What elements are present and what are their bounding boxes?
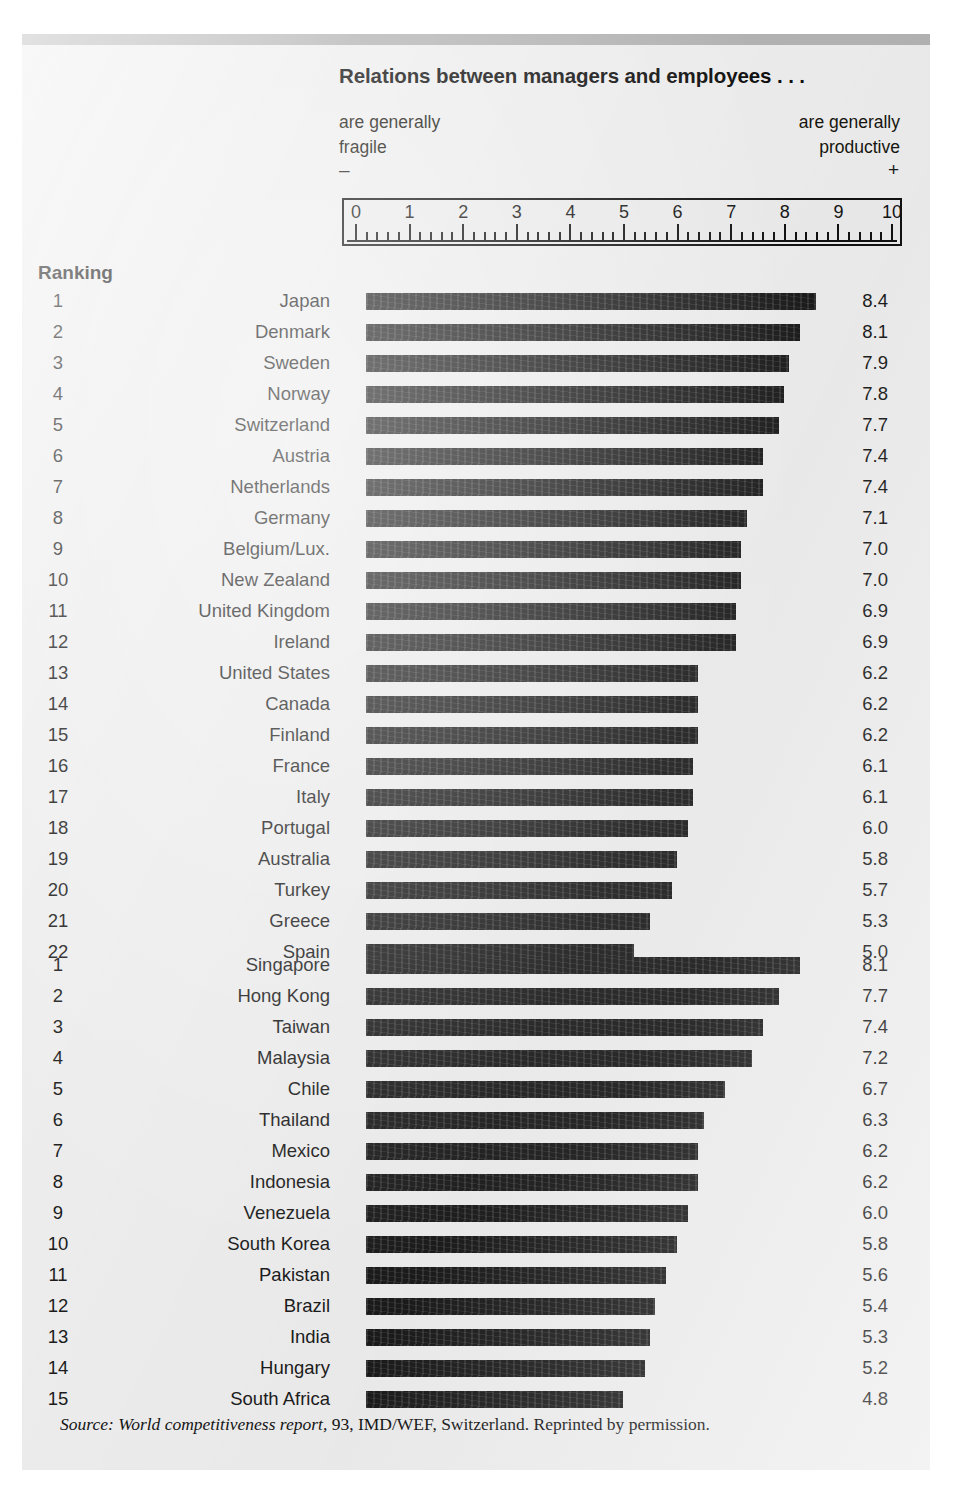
- ranking-row: 4Norway7.8: [22, 380, 930, 411]
- ranking-row: 21Greece5.3: [22, 907, 930, 938]
- rank-number: 8: [22, 507, 94, 529]
- ranking-row: 12Ireland6.9: [22, 628, 930, 659]
- rank-number: 16: [22, 755, 94, 777]
- value-label: 6.1: [828, 755, 888, 777]
- country-label: Finland: [132, 724, 330, 746]
- bar: [366, 1019, 763, 1036]
- country-label: Portugal: [132, 817, 330, 839]
- plus-sign-icon: +: [888, 161, 899, 179]
- rank-number: 7: [22, 476, 94, 498]
- value-label: 8.1: [828, 321, 888, 343]
- country-label: Germany: [132, 507, 330, 529]
- value-label: 7.9: [828, 352, 888, 374]
- value-label: 8.4: [828, 290, 888, 312]
- value-label: 7.8: [828, 383, 888, 405]
- value-label: 7.4: [828, 445, 888, 467]
- value-label: 6.9: [828, 600, 888, 622]
- value-label: 6.9: [828, 631, 888, 653]
- rank-number: 10: [22, 569, 94, 591]
- ranking-row: 1Singapore8.1: [22, 951, 930, 982]
- source-title: World competitiveness report,: [118, 1414, 327, 1434]
- ranking-row: 14Hungary5.2: [22, 1354, 930, 1385]
- ranking-row: 15Finland6.2: [22, 721, 930, 752]
- country-label: Canada: [132, 693, 330, 715]
- rank-number: 2: [22, 321, 94, 343]
- value-label: 5.2: [828, 1357, 888, 1379]
- value-label: 6.0: [828, 1202, 888, 1224]
- bar: [366, 386, 784, 403]
- bar: [366, 293, 816, 310]
- value-label: 5.8: [828, 848, 888, 870]
- ranking-row: 6Austria7.4: [22, 442, 930, 473]
- country-label: South Africa: [132, 1388, 330, 1410]
- country-label: New Zealand: [132, 569, 330, 591]
- rank-number: 14: [22, 693, 94, 715]
- scale-ruler-ticks: 012345678910: [344, 200, 900, 244]
- minus-sign-icon: –: [339, 161, 350, 179]
- rank-number: 19: [22, 848, 94, 870]
- country-label: Japan: [132, 290, 330, 312]
- bar: [366, 572, 741, 589]
- rank-number: 1: [22, 290, 94, 312]
- rank-number: 18: [22, 817, 94, 839]
- rank-number: 17: [22, 786, 94, 808]
- bar: [366, 1112, 704, 1129]
- value-label: 7.2: [828, 1047, 888, 1069]
- rank-number: 13: [22, 1326, 94, 1348]
- value-label: 6.3: [828, 1109, 888, 1131]
- bar: [366, 727, 698, 744]
- rank-number: 20: [22, 879, 94, 901]
- value-label: 6.1: [828, 786, 888, 808]
- value-label: 7.4: [828, 476, 888, 498]
- value-label: 5.7: [828, 879, 888, 901]
- bar: [366, 1174, 698, 1191]
- ranking-row: 9Venezuela6.0: [22, 1199, 930, 1230]
- rank-number: 9: [22, 538, 94, 560]
- country-label: Brazil: [132, 1295, 330, 1317]
- ranking-row: 14Canada6.2: [22, 690, 930, 721]
- ranking-row: 9Belgium/Lux.7.0: [22, 535, 930, 566]
- ranking-row: 2Hong Kong7.7: [22, 982, 930, 1013]
- country-label: Netherlands: [132, 476, 330, 498]
- rank-number: 5: [22, 414, 94, 436]
- country-label: Venezuela: [132, 1202, 330, 1224]
- country-label: Italy: [132, 786, 330, 808]
- axis-caption-left-line2: fragile: [339, 135, 440, 160]
- bar: [366, 789, 693, 806]
- figure-panel: Relations between managers and employees…: [22, 34, 930, 1470]
- ranking-row: 13United States6.2: [22, 659, 930, 690]
- bar: [366, 851, 677, 868]
- scale-tick-label-4: 4: [565, 201, 575, 223]
- bar: [366, 758, 693, 775]
- ranking-row: 10New Zealand7.0: [22, 566, 930, 597]
- rank-number: 11: [22, 600, 94, 622]
- scale-tick-label-10: 10: [882, 201, 902, 223]
- bar: [366, 510, 747, 527]
- bar: [366, 882, 672, 899]
- value-label: 7.7: [828, 985, 888, 1007]
- value-label: 8.1: [828, 954, 888, 976]
- ranking-row: 20Turkey5.7: [22, 876, 930, 907]
- country-label: Mexico: [132, 1140, 330, 1162]
- rank-number: 15: [22, 724, 94, 746]
- bar: [366, 355, 789, 372]
- value-label: 6.2: [828, 693, 888, 715]
- bar: [366, 634, 736, 651]
- scale-tick-label-2: 2: [458, 201, 468, 223]
- country-label: Hong Kong: [132, 985, 330, 1007]
- rank-number: 12: [22, 631, 94, 653]
- country-label: Hungary: [132, 1357, 330, 1379]
- country-label: Ireland: [132, 631, 330, 653]
- bar: [366, 665, 698, 682]
- value-label: 4.8: [828, 1388, 888, 1410]
- rank-number: 4: [22, 383, 94, 405]
- country-label: Switzerland: [132, 414, 330, 436]
- value-label: 6.0: [828, 817, 888, 839]
- rank-number: 11: [22, 1264, 94, 1286]
- bar: [366, 1267, 666, 1284]
- ranking-row: 13India5.3: [22, 1323, 930, 1354]
- source-note: Source: World competitiveness report, 93…: [60, 1414, 710, 1435]
- scale-tick-label-9: 9: [833, 201, 843, 223]
- scale-tick-label-8: 8: [780, 201, 790, 223]
- source-rest: 93, IMD/WEF, Switzerland. Reprinted by p…: [327, 1414, 710, 1434]
